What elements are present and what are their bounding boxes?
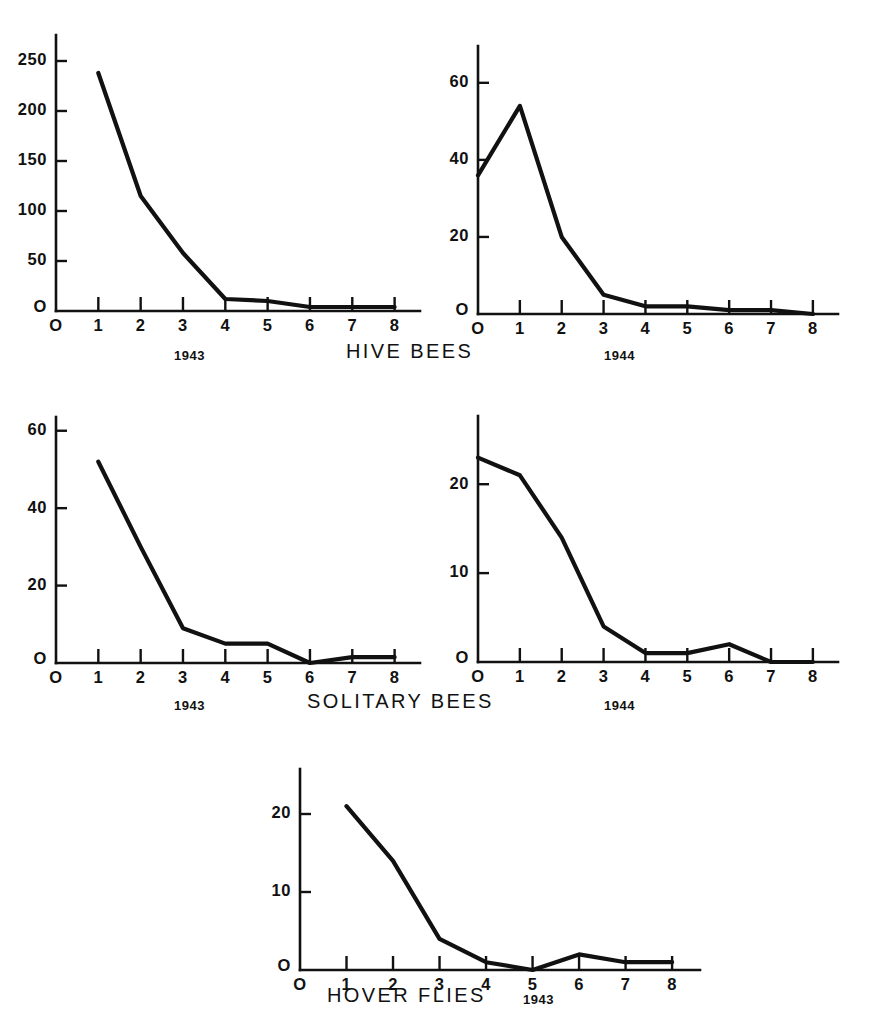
chart-panel-hive-bees-1944: O204060O12345678: [430, 0, 869, 340]
x-tick-label: 6: [574, 975, 584, 993]
y-origin-label: O: [34, 649, 47, 667]
x-tick-label: 6: [724, 319, 734, 337]
x-tick-label: 2: [136, 316, 146, 334]
caption-hover-flies-year: 1943: [523, 992, 554, 1007]
x-origin-label: O: [49, 316, 62, 334]
x-tick-label: 5: [682, 667, 692, 685]
y-tick-label: 250: [18, 50, 47, 68]
y-tick-label: 60: [27, 420, 47, 438]
caption-hive-bees-title: HIVE BEES: [346, 340, 473, 363]
x-tick-label: 4: [641, 667, 651, 685]
y-origin-label: O: [456, 300, 469, 318]
chart-svg-hover-flies-1943: O1020O12345678: [244, 740, 714, 990]
y-tick-label: 20: [27, 575, 47, 593]
y-tick-label: 200: [18, 100, 47, 118]
y-origin-label: O: [34, 297, 47, 315]
x-tick-label: 8: [667, 975, 677, 993]
y-tick-label: 20: [449, 226, 469, 244]
x-tick-label: 5: [528, 975, 538, 993]
chart-svg-hive-bees-1944: O204060O12345678: [430, 0, 869, 340]
x-tick-label: 6: [724, 667, 734, 685]
x-tick-label: 6: [305, 316, 315, 334]
data-series-line: [98, 73, 394, 307]
x-origin-label: O: [471, 319, 484, 337]
chart-svg-hive-bees-1943: O50100150200250O12345678: [0, 0, 440, 340]
x-tick-label: 1: [515, 667, 525, 685]
chart-panel-solitary-bees-1943: O204060O12345678: [0, 380, 440, 690]
x-tick-label: 2: [136, 668, 146, 686]
data-series-line: [347, 806, 673, 970]
chart-panel-hover-flies-1943: O1020O12345678: [244, 740, 714, 990]
x-tick-label: 6: [305, 668, 315, 686]
chart-panel-solitary-bees-1944: O1020O12345678: [430, 380, 869, 690]
x-tick-label: 8: [808, 319, 818, 337]
x-tick-label: 4: [641, 319, 651, 337]
y-tick-label: 10: [271, 881, 291, 899]
y-tick-label: 20: [449, 474, 469, 492]
caption-solitary-bees-title: SOLITARY BEES: [307, 690, 494, 713]
y-tick-label: 60: [449, 72, 469, 90]
chart-svg-solitary-bees-1944: O1020O12345678: [430, 380, 869, 690]
y-tick-label: 100: [18, 200, 47, 218]
y-tick-label: 50: [27, 250, 47, 268]
caption-solitary-1943-year: 1943: [174, 698, 205, 713]
figure-root: O50100150200250O12345678 O204060O1234567…: [0, 0, 869, 1036]
data-series-line: [478, 106, 813, 314]
x-tick-label: 3: [178, 668, 188, 686]
x-tick-label: 3: [178, 316, 188, 334]
data-series-line: [478, 458, 813, 662]
x-tick-label: 4: [220, 668, 230, 686]
x-origin-label: O: [293, 975, 306, 993]
x-tick-label: 1: [515, 319, 525, 337]
y-tick-label: 150: [18, 150, 47, 168]
x-tick-label: 5: [682, 319, 692, 337]
x-tick-label: 3: [599, 667, 609, 685]
y-tick-label: 10: [449, 562, 469, 580]
caption-hive-1943-year: 1943: [174, 348, 205, 363]
caption-solitary-1944-year: 1944: [604, 698, 635, 713]
x-origin-label: O: [471, 667, 484, 685]
x-tick-label: 1: [93, 668, 103, 686]
x-tick-label: 8: [390, 316, 400, 334]
x-tick-label: 8: [808, 667, 818, 685]
y-origin-label: O: [456, 648, 469, 666]
x-tick-label: 4: [220, 316, 230, 334]
caption-hive-1944-year: 1944: [604, 348, 635, 363]
caption-hover-flies-title: HOVER FLIES: [327, 984, 486, 1007]
x-tick-label: 8: [390, 668, 400, 686]
y-tick-label: 40: [449, 149, 469, 167]
chart-panel-hive-bees-1943: O50100150200250O12345678: [0, 0, 440, 340]
x-tick-label: 2: [557, 667, 567, 685]
y-origin-label: O: [278, 956, 291, 974]
x-origin-label: O: [49, 668, 62, 686]
data-series-line: [98, 462, 394, 663]
x-tick-label: 5: [263, 316, 273, 334]
x-tick-label: 7: [766, 319, 776, 337]
chart-svg-solitary-bees-1943: O204060O12345678: [0, 380, 440, 690]
x-tick-label: 5: [263, 668, 273, 686]
x-tick-label: 2: [557, 319, 567, 337]
x-tick-label: 7: [766, 667, 776, 685]
y-tick-label: 40: [27, 498, 47, 516]
x-tick-label: 1: [93, 316, 103, 334]
x-tick-label: 7: [347, 316, 357, 334]
x-tick-label: 7: [621, 975, 631, 993]
x-tick-label: 3: [599, 319, 609, 337]
x-tick-label: 7: [347, 668, 357, 686]
y-tick-label: 20: [271, 803, 291, 821]
